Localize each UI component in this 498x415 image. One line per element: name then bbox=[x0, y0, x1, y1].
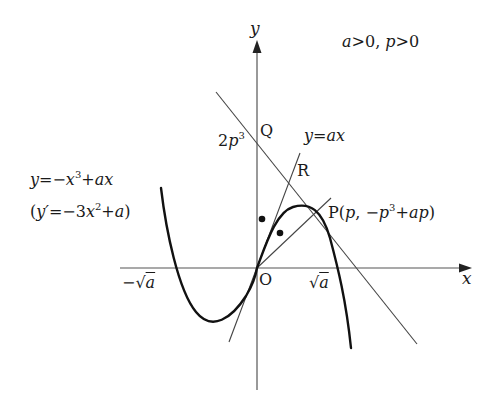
x-tick-neg-sqrt-a: −√a bbox=[122, 275, 155, 291]
pos-sqrt-sign: √ bbox=[309, 273, 319, 292]
p-ap: ap bbox=[409, 203, 429, 222]
deriv-eq: =−3 bbox=[49, 202, 86, 221]
cond-gt1: >0, bbox=[352, 32, 386, 51]
y-tick-2p3: 2p3 bbox=[218, 133, 245, 149]
deriv-plus: + bbox=[101, 202, 114, 221]
line-ax: ax bbox=[326, 126, 345, 145]
origin-label: O bbox=[259, 272, 272, 288]
line-equation-label: y=ax bbox=[304, 128, 345, 144]
angle-marker-dot bbox=[259, 216, 266, 223]
cond-a: a bbox=[342, 32, 352, 51]
ytick-p: p bbox=[228, 131, 238, 150]
p-close: ) bbox=[429, 203, 435, 222]
neg-sqrt-a: a bbox=[146, 273, 156, 292]
curve-ax: ax bbox=[95, 170, 114, 189]
point-p-label: P(p, −p3+ap) bbox=[328, 205, 435, 221]
y-axis-label: y bbox=[250, 20, 260, 37]
pos-sqrt-a: a bbox=[319, 273, 329, 292]
deriv-a: a bbox=[115, 202, 125, 221]
neg-sqrt-sign: −√ bbox=[122, 273, 146, 292]
deriv-close: ) bbox=[124, 202, 130, 221]
segment-op bbox=[257, 198, 331, 268]
derivative-label: (y′=−3x2+a) bbox=[30, 204, 131, 220]
ytick-exp: 3 bbox=[238, 130, 244, 141]
point-r-label: R bbox=[297, 163, 309, 179]
cond-gt2: >0 bbox=[396, 32, 420, 51]
p-name: P( bbox=[328, 203, 345, 222]
condition-label: a>0, p>0 bbox=[342, 34, 419, 50]
deriv-x: x bbox=[86, 202, 95, 221]
angle-marker-dot bbox=[277, 230, 284, 237]
curve-y: y bbox=[30, 170, 39, 189]
p-comma: , − bbox=[355, 203, 379, 222]
curve-x: x bbox=[66, 170, 75, 189]
curve-equation-label: y=−x3+ax bbox=[30, 172, 113, 188]
cond-p: p bbox=[385, 32, 395, 51]
x-axis-label: x bbox=[462, 270, 472, 287]
ytick-2: 2 bbox=[218, 131, 228, 150]
point-q-label: Q bbox=[260, 123, 273, 139]
deriv-y: y′ bbox=[36, 202, 49, 221]
p-x: p bbox=[345, 203, 355, 222]
curve-plus: + bbox=[81, 170, 94, 189]
x-tick-pos-sqrt-a: √a bbox=[309, 275, 329, 291]
p-plus: + bbox=[395, 203, 408, 222]
curve-eq: =− bbox=[39, 170, 66, 189]
line-y: y bbox=[304, 126, 313, 145]
y-axis-arrow-icon bbox=[253, 40, 262, 53]
p-p: p bbox=[379, 203, 389, 222]
line-eq: = bbox=[313, 126, 326, 145]
